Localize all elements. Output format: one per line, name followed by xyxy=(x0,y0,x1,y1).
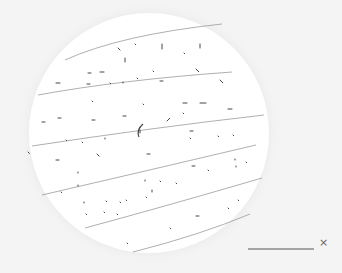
particle-speck xyxy=(143,104,144,105)
particle-speck xyxy=(246,162,247,163)
particle-speck xyxy=(126,200,127,201)
particle-speck xyxy=(120,202,121,203)
particle-speck xyxy=(208,170,209,171)
particle-speck xyxy=(86,214,87,215)
particle-speck xyxy=(228,208,229,209)
particle-speck xyxy=(160,181,161,182)
micrograph-canvas xyxy=(0,0,342,273)
particle-speck xyxy=(61,192,62,193)
scale-bar-label: × xyxy=(319,237,328,248)
particle-speck xyxy=(117,214,118,215)
particle-speck xyxy=(135,44,136,45)
particle-speck xyxy=(127,243,128,244)
particle-speck xyxy=(176,183,177,184)
particle-speck xyxy=(190,138,191,139)
particle-speck xyxy=(106,201,107,202)
particle-speck xyxy=(183,113,184,114)
particle-speck xyxy=(218,136,219,137)
microscope-field xyxy=(29,13,269,253)
particle-speck xyxy=(146,197,147,198)
particle-speck xyxy=(170,228,171,229)
particle-speck xyxy=(233,135,234,136)
particle-speck xyxy=(153,71,154,72)
particle-speck xyxy=(82,142,83,143)
particle-speck xyxy=(238,200,239,201)
particle-speck xyxy=(92,101,93,102)
particle-speck xyxy=(66,140,67,141)
particle-speck xyxy=(184,53,185,54)
particle-speck xyxy=(137,78,138,79)
particle-speck xyxy=(104,212,105,213)
particle-speck xyxy=(110,83,111,84)
